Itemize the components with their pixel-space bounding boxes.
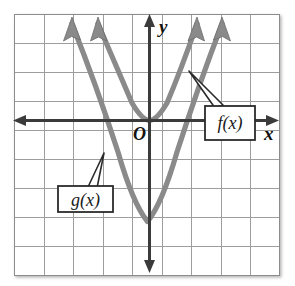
origin-label: O xyxy=(133,124,146,144)
coordinate-plane-figure: f(x) g(x) O y x xyxy=(0,0,295,286)
g-callout-box: g(x) xyxy=(58,186,113,212)
figure-container: f(x) g(x) O y x xyxy=(0,0,295,286)
y-axis-label: y xyxy=(157,16,168,37)
g-callout-label: g(x) xyxy=(71,190,100,211)
f-callout-box: f(x) xyxy=(205,106,255,140)
paper-panel xyxy=(14,14,280,276)
x-axis-label: x xyxy=(263,123,274,144)
f-callout-label: f(x) xyxy=(218,113,243,134)
